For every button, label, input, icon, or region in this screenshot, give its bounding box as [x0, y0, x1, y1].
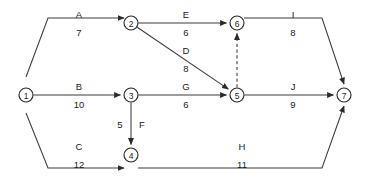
node-label-1: 1: [24, 91, 29, 101]
edge-duration-f: 5: [117, 119, 122, 130]
edge-duration-g: 6: [183, 99, 188, 110]
network-diagram: 1234567 A7B10C12E6D8F5G6I8J9H11: [0, 0, 368, 182]
edge-duration-h: 11: [237, 159, 247, 170]
edge-labels-layer: A7B10C12E6D8F5G6I8J9H11: [74, 9, 296, 170]
edges-layer: [26, 18, 344, 168]
node-1[interactable]: 1: [19, 88, 33, 102]
edge-duration-a: 7: [76, 27, 81, 38]
edge-label-f: F: [139, 119, 145, 130]
edge-duration-d: 8: [183, 63, 188, 74]
network-diagram-canvas: 1234567 A7B10C12E6D8F5G6I8J9H11: [0, 0, 368, 182]
edge-duration-b: 10: [74, 99, 85, 110]
node-6[interactable]: 6: [230, 16, 244, 30]
node-label-2: 2: [129, 19, 134, 29]
node-5[interactable]: 5: [230, 88, 244, 102]
node-4[interactable]: 4: [124, 148, 138, 162]
edge-duration-j: 9: [290, 99, 295, 110]
edge-label-e: E: [183, 9, 189, 20]
node-label-6: 6: [235, 19, 240, 29]
edge-duration-e: 6: [183, 27, 188, 38]
edge-label-h: H: [239, 141, 246, 152]
node-3[interactable]: 3: [124, 88, 138, 102]
node-label-4: 4: [129, 151, 134, 161]
edge-label-g: G: [182, 81, 189, 92]
edge-label-c: C: [76, 141, 83, 152]
node-label-7: 7: [342, 91, 347, 101]
node-label-5: 5: [235, 91, 240, 101]
node-label-3: 3: [129, 91, 134, 101]
edge-label-d: D: [183, 45, 190, 56]
edge-label-i: I: [292, 9, 295, 20]
edge-duration-c: 12: [74, 159, 85, 170]
node-7[interactable]: 7: [337, 88, 351, 102]
edge-label-b: B: [76, 81, 82, 92]
edge-a: [26, 18, 124, 77]
edge-label-a: A: [76, 9, 83, 20]
node-2[interactable]: 2: [124, 16, 138, 30]
edge-duration-i: 8: [290, 27, 295, 38]
edge-label-j: J: [291, 81, 296, 92]
